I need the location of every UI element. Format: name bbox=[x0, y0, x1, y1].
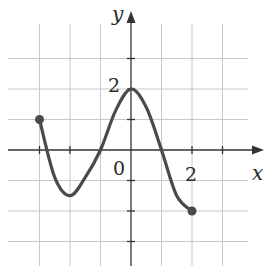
y-tick-label-2: 2 bbox=[108, 74, 120, 96]
end-endpoint-dot bbox=[188, 207, 197, 216]
y-axis-label: y bbox=[111, 2, 124, 26]
axes bbox=[8, 11, 264, 266]
start-endpoint-dot bbox=[35, 115, 44, 124]
x-axis-arrow-icon bbox=[252, 146, 264, 155]
x-axis-label: x bbox=[252, 161, 263, 185]
origin-label: 0 bbox=[113, 157, 125, 179]
function-graph: y x 0 2 2 bbox=[0, 0, 269, 268]
y-axis-arrow-icon bbox=[127, 11, 136, 23]
x-tick-label-2: 2 bbox=[185, 163, 197, 185]
